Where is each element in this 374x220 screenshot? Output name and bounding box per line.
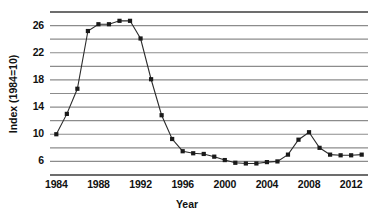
data-point-marker	[149, 77, 153, 81]
data-point-marker	[54, 132, 58, 136]
series-layer	[50, 12, 368, 175]
data-point-marker	[181, 149, 185, 153]
x-axis-tick-label: 2012	[331, 178, 371, 190]
data-point-marker	[339, 153, 343, 157]
x-axis-tick-label: 2000	[205, 178, 245, 190]
data-point-marker	[233, 161, 237, 165]
data-point-marker	[265, 160, 269, 164]
data-point-marker	[75, 87, 79, 91]
plot-area	[50, 12, 368, 175]
y-axis-title: Index (1984=10)	[7, 29, 19, 159]
x-axis-tick-label: 2004	[247, 178, 287, 190]
data-point-marker	[170, 137, 174, 141]
data-point-marker	[138, 36, 142, 40]
data-point-marker	[128, 19, 132, 23]
data-point-marker	[244, 161, 248, 165]
line-chart: 61014182226 1984198819921996200020042008…	[0, 0, 374, 220]
data-point-marker	[254, 161, 258, 165]
x-axis-tick-label: 2008	[289, 178, 329, 190]
series-line	[56, 21, 361, 164]
data-point-marker	[212, 155, 216, 159]
data-point-marker	[107, 22, 111, 26]
data-point-marker	[160, 113, 164, 117]
data-point-marker	[307, 130, 311, 134]
data-point-marker	[117, 19, 121, 23]
data-point-marker	[223, 158, 227, 162]
x-axis-tick-label: 1992	[121, 178, 161, 190]
data-point-marker	[349, 153, 353, 157]
data-point-marker	[86, 29, 90, 33]
x-axis-tick-label: 1984	[36, 178, 76, 190]
data-point-marker	[191, 151, 195, 155]
data-point-marker	[275, 159, 279, 163]
data-point-marker	[360, 153, 364, 157]
data-point-marker	[286, 153, 290, 157]
data-point-marker	[328, 153, 332, 157]
data-point-marker	[317, 146, 321, 150]
data-point-marker	[96, 22, 100, 26]
data-point-marker	[65, 112, 69, 116]
data-point-marker	[202, 152, 206, 156]
data-point-marker	[296, 138, 300, 142]
x-axis-tick-label: 1988	[78, 178, 118, 190]
x-axis-tick-label: 1996	[163, 178, 203, 190]
x-axis-title: Year	[0, 198, 374, 210]
